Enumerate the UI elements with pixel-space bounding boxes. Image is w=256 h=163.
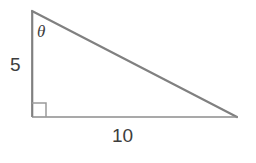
right-angle-marker-icon	[32, 103, 46, 117]
hypotenuse-line	[32, 11, 237, 117]
horizontal-leg-label: 10	[112, 126, 133, 145]
vertical-leg-label: 5	[10, 55, 21, 74]
theta-angle-label: θ	[37, 23, 45, 40]
triangle-diagram: 5 10 θ	[0, 0, 256, 163]
